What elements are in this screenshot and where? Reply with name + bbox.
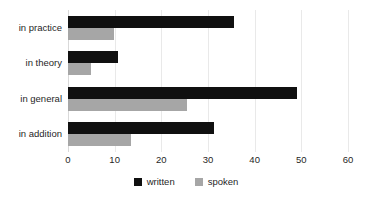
legend-item-spoken[interactable]: spoken [195,176,239,187]
bar-spoken-in-theory [68,63,91,75]
gridline-50 [301,10,302,152]
bar-spoken-in-practice [68,28,114,40]
gridline-40 [255,10,256,152]
legend-item-written[interactable]: written [134,176,175,187]
x-tick-label: 0 [65,154,70,165]
bar-written-in-addition [68,122,214,134]
x-tick-label: 30 [203,154,214,165]
chart-legend: writtenspoken [0,176,372,187]
category-axis-labels: in practicein theoryin generalin additio… [0,10,62,152]
legend-swatch-icon-spoken [195,178,203,186]
legend-swatch-icon-written [134,178,142,186]
category-label-in-practice: in practice [0,22,62,33]
bar-written-in-theory [68,51,118,63]
gridline-60 [348,10,349,152]
category-label-in-theory: in theory [0,57,62,68]
bar-written-in-general [68,87,297,99]
x-tick-label: 40 [249,154,260,165]
x-tick-label: 60 [343,154,354,165]
category-label-in-addition: in addition [0,128,62,139]
legend-label: spoken [208,176,239,187]
x-tick-label: 20 [156,154,167,165]
x-tick-label: 10 [109,154,120,165]
x-tick-label: 50 [296,154,307,165]
legend-label: written [147,176,175,187]
bar-written-in-practice [68,16,234,28]
bar-spoken-in-general [68,99,187,111]
plot-area [68,10,348,152]
bar-spoken-in-addition [68,134,131,146]
bar-chart: in practicein theoryin generalin additio… [0,0,372,199]
category-label-in-general: in general [0,93,62,104]
